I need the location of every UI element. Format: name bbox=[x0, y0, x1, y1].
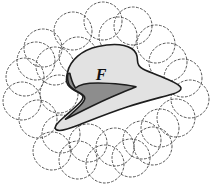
region-label-f: F bbox=[95, 66, 107, 83]
region-covering-diagram: Region F covered by dashed circles A clo… bbox=[0, 0, 223, 188]
figure-container: Region F covered by dashed circles A clo… bbox=[0, 0, 223, 188]
